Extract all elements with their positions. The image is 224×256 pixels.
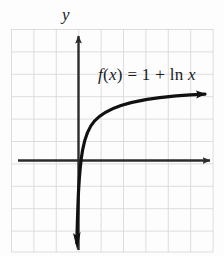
function-equation-label: f(x) = 1 + ln x — [98, 66, 196, 83]
label-plus: + — [151, 65, 170, 84]
label-x-final: x — [188, 65, 196, 84]
label-equals: = — [123, 65, 142, 84]
label-x-arg: x — [109, 65, 117, 84]
label-one: 1 — [142, 65, 151, 84]
graph-svg — [0, 0, 224, 256]
figure-canvas: y f(x) = 1 + ln x — [0, 0, 224, 256]
y-axis-label: y — [62, 6, 70, 23]
label-ln: ln — [170, 65, 188, 84]
